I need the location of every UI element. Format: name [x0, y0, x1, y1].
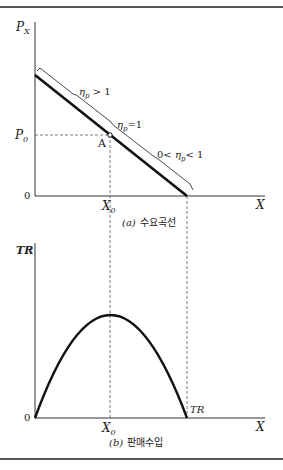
origin-label-b: 0	[24, 412, 30, 423]
tr-curve-label: TR	[190, 404, 205, 415]
panel-b-total-revenue: TR X 0 TR X0 (b)판매수입	[16, 243, 265, 448]
y-axis-label-a: PX	[15, 20, 30, 36]
inelastic-label: 0< ηp< 1	[157, 149, 203, 163]
demand-revenue-diagram: PX X 0 A P0 X0 ηp > 1 ηp=1 0< ηp< 1 (a)수…	[0, 0, 283, 470]
total-revenue-curve	[35, 315, 187, 418]
x0-label-b: X0	[101, 421, 116, 437]
y-axis-label-b: TR	[16, 244, 33, 257]
caption-b: (b)판매수입	[109, 436, 163, 448]
x-axis-label-a: X	[255, 198, 265, 212]
origin-label-a: 0	[24, 190, 30, 201]
elastic-label: ηp > 1	[79, 86, 111, 100]
bottom-border-rule	[0, 458, 283, 460]
point-a-label: A	[97, 137, 107, 150]
caption-a: (a)수요곡선	[122, 217, 176, 228]
p0-label: P0	[14, 128, 28, 144]
point-a-marker	[108, 133, 112, 137]
x-axis-label-b: X	[255, 420, 265, 434]
x0-label-a: X0	[101, 199, 116, 215]
panel-a-demand-curve: PX X 0 A P0 X0 ηp > 1 ηp=1 0< ηp< 1 (a)수…	[14, 20, 265, 418]
